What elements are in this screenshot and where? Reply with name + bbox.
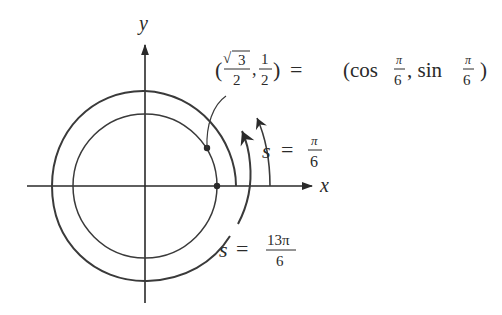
sqrt-arg: 3 <box>238 52 246 68</box>
sqrt-symbol: √ <box>223 50 232 66</box>
sin-pi: π <box>465 53 472 67</box>
frac2-num: 1 <box>261 51 269 67</box>
outer-spiral-arc-end <box>238 131 251 224</box>
point-one-zero <box>214 183 220 189</box>
equals-large: = <box>236 236 248 261</box>
cos-pi: π <box>396 53 403 67</box>
pi-num-small: π <box>311 133 318 148</box>
equals-sign: = <box>290 57 302 82</box>
cos-open: (cos <box>343 58 378 82</box>
left-paren: ( <box>215 57 222 82</box>
frac2-den: 2 <box>261 72 269 88</box>
diagram-canvas: y x ( √ 3 2 , 1 2 ) = (cos π 6 , sin π <box>0 0 502 315</box>
num-13pi: 13π <box>267 232 290 248</box>
arc-label-pi-over-6: s = π 6 <box>262 133 322 170</box>
x-axis-label: x <box>319 174 329 196</box>
y-axis-label: y <box>137 12 148 35</box>
point-coordinate-label: ( √ 3 2 , 1 2 ) = (cos π 6 , sin π 6 ) <box>215 50 487 88</box>
unit-circle-diagram: y x ( √ 3 2 , 1 2 ) = (cos π 6 , sin π <box>0 0 502 315</box>
sin-six: 6 <box>463 72 471 88</box>
six-den-large: 6 <box>276 253 284 269</box>
s-var-small: s <box>262 138 271 163</box>
comma-1: , <box>252 59 257 79</box>
six-den-small: 6 <box>310 153 318 170</box>
cos-six: 6 <box>394 72 402 88</box>
s-var-large: s <box>219 237 228 262</box>
sin-mid: , sin <box>407 58 443 82</box>
arc-label-13pi-over-6: s = 13π 6 <box>219 232 296 269</box>
equals-small: = <box>281 137 293 162</box>
rhs-close: ) <box>480 58 487 82</box>
frac1-den: 2 <box>233 72 241 88</box>
right-paren: ) <box>273 57 280 82</box>
